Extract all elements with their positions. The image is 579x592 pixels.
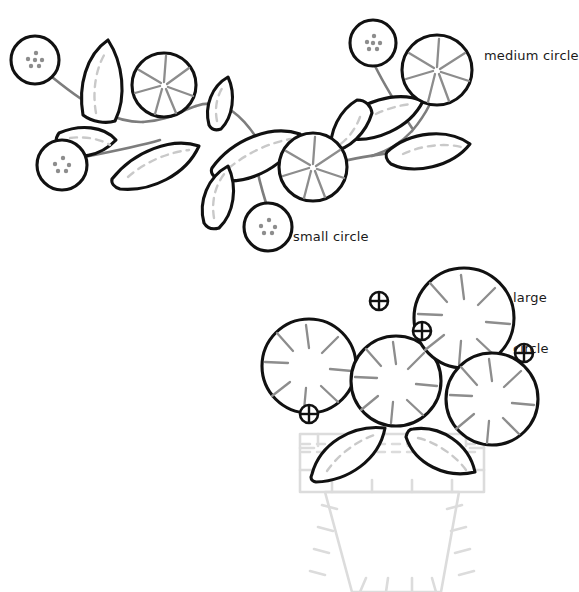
pot-leaves (311, 427, 475, 482)
medium-circle-spoked (279, 133, 347, 201)
placement-marker-icon (370, 292, 388, 310)
small-circle-dotted (350, 20, 396, 66)
placement-marker-icon (413, 322, 431, 340)
figure-vine-sprig (11, 20, 472, 251)
small-circle-dotted (37, 140, 87, 190)
placement-marker-icon (300, 405, 318, 423)
small-circle-dotted (11, 36, 59, 84)
label-medium-circle: medium circle (484, 48, 579, 64)
large-circle-spoked (262, 319, 356, 413)
medium-circle-spoked (132, 53, 196, 117)
label-large-circle-line2: circle (513, 340, 549, 357)
medium-circle-spoked (402, 35, 472, 105)
figure-flower-pot (262, 268, 538, 592)
label-large-circle-line1: large (513, 289, 549, 306)
label-large-circle: large circle (513, 255, 549, 391)
label-small-circle: small circle (293, 229, 369, 245)
small-circle-dotted (244, 203, 292, 251)
